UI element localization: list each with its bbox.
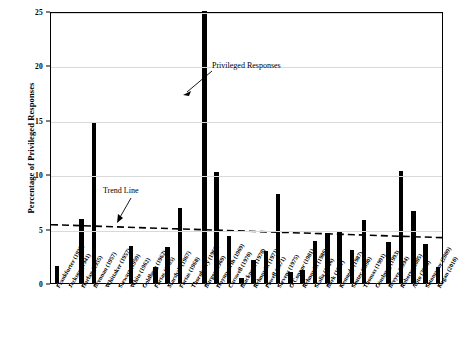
gridline xyxy=(51,176,442,177)
gridline xyxy=(51,13,442,14)
annotation-privileged-responses: Privileged Responses xyxy=(212,61,281,70)
y-tick-label: 0 xyxy=(39,280,43,289)
plot-area xyxy=(50,12,443,284)
y-tick-label: 15 xyxy=(35,116,43,125)
y-tick-label: 10 xyxy=(35,171,43,180)
y-tick-label: 5 xyxy=(39,225,43,234)
x-axis-labels: Frankfurter (1939)Jackson (1941)Harlan (… xyxy=(50,286,443,350)
y-tick-label: 20 xyxy=(35,62,43,71)
gridline xyxy=(51,122,442,123)
y-axis: Percentage of Privileged Responses 05101… xyxy=(0,12,50,284)
bar-series xyxy=(51,13,442,283)
gridline xyxy=(51,231,442,232)
bar xyxy=(202,11,207,283)
y-tick-label: 25 xyxy=(35,8,43,17)
annotation-trend-line: Trend Line xyxy=(103,186,138,195)
